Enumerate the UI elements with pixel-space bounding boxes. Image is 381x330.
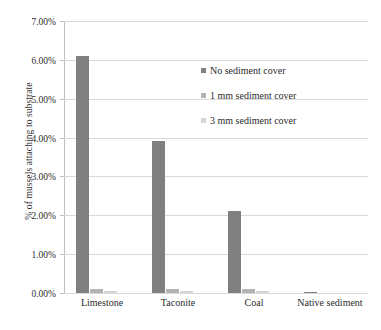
legend-item: 3 mm sediment cover — [201, 108, 333, 133]
y-axis-tick — [60, 21, 64, 22]
bar — [256, 291, 269, 293]
y-axis-tick-label: 6.00% — [31, 56, 56, 66]
x-axis-tick-label: Coal — [245, 297, 264, 308]
legend-item: No sediment cover — [201, 58, 333, 83]
bar — [152, 141, 165, 293]
bar — [180, 291, 193, 293]
legend-swatch-icon — [201, 118, 206, 123]
legend-label: 3 mm sediment cover — [210, 115, 296, 126]
bar-group — [76, 21, 117, 293]
y-axis-tick-label: 5.00% — [31, 95, 56, 105]
y-axis-tick — [60, 176, 64, 177]
x-axis-tick-label: Limestone — [81, 297, 123, 308]
legend-item: 1 mm sediment cover — [201, 83, 333, 108]
bar — [104, 291, 117, 293]
chart-legend: No sediment cover1 mm sediment cover3 mm… — [201, 58, 333, 133]
x-axis-tick-labels: LimestoneTaconiteCoalNative sediment — [64, 297, 368, 317]
legend-label: 1 mm sediment cover — [210, 90, 296, 101]
legend-swatch-icon — [201, 93, 206, 98]
legend-swatch-icon — [201, 68, 206, 73]
bar — [166, 289, 179, 293]
y-axis-tick-labels: 0.00%1.00%2.00%3.00%4.00%5.00%6.00%7.00% — [12, 22, 60, 294]
gridline — [64, 293, 368, 294]
bar-group — [152, 21, 193, 293]
bar-chart: % of mussels attaching to substrate 0.00… — [0, 0, 381, 330]
x-axis-tick-label: Taconite — [161, 297, 195, 308]
y-axis-tick — [60, 60, 64, 61]
bar — [76, 56, 89, 293]
y-axis-tick-label: 7.00% — [31, 17, 56, 27]
bar — [90, 289, 103, 293]
y-axis-tick — [60, 99, 64, 100]
bar — [228, 211, 241, 293]
y-axis-tick — [60, 215, 64, 216]
y-axis-tick — [60, 293, 64, 294]
y-axis-tick-label: 1.00% — [31, 250, 56, 260]
legend-label: No sediment cover — [210, 65, 286, 76]
y-axis-tick-label: 3.00% — [31, 172, 56, 182]
y-axis-tick-label: 2.00% — [31, 211, 56, 221]
y-axis-tick — [60, 138, 64, 139]
y-axis-tick — [60, 254, 64, 255]
x-axis-tick-label: Native sediment — [297, 297, 362, 308]
y-axis-tick-label: 0.00% — [31, 289, 56, 299]
y-axis-tick-label: 4.00% — [31, 134, 56, 144]
bar — [304, 292, 317, 293]
bar — [242, 289, 255, 293]
